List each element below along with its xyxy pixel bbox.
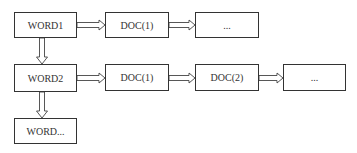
arrow-word2-to-doc1: [77, 73, 105, 83]
row2-doc2-node: DOC(2): [195, 64, 259, 91]
arrow-word1-to-word2: [37, 38, 48, 64]
row2-doc2-label: DOC(2): [211, 72, 244, 83]
arrow-doc1-to-ellipsis-row1: [169, 20, 195, 30]
word-more-node: WORD...: [14, 118, 77, 144]
word2-label: WORD2: [28, 73, 64, 84]
row2-ellipsis-label: ...: [311, 72, 319, 83]
row1-ellipsis-label: ...: [223, 20, 231, 31]
word-more-label: WORD...: [26, 126, 64, 137]
row2-doc1-label: DOC(1): [121, 72, 154, 83]
arrow-word2-to-word-more: [37, 92, 48, 118]
row1-doc1-node: DOC(1): [105, 12, 169, 38]
word2-node: WORD2: [14, 64, 77, 92]
word1-label: WORD1: [28, 20, 64, 31]
word1-node: WORD1: [14, 12, 77, 38]
row1-ellipsis-node: ...: [195, 12, 259, 38]
row2-ellipsis-node: ...: [283, 64, 346, 91]
row1-doc1-label: DOC(1): [121, 20, 154, 31]
arrow-doc1-to-doc2-row2: [169, 73, 195, 83]
arrow-doc2-to-ellipsis-row2: [259, 73, 283, 83]
arrow-word1-to-doc1: [77, 20, 105, 30]
row2-doc1-node: DOC(1): [105, 64, 169, 91]
